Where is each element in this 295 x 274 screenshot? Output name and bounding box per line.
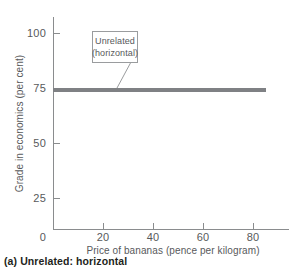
annotation-callout-box: Unrelated (horizontal) (92, 31, 138, 63)
y-tick-label-0: 0 (24, 232, 46, 243)
annotation-leader-line (108, 62, 132, 90)
x-tick-label-40: 40 (138, 232, 168, 243)
data-series-unrelated-horizontal (53, 88, 266, 92)
chart-figure: 100 75 50 25 0 20 40 60 80 Grade in econ… (0, 0, 295, 274)
x-tick-60 (203, 223, 204, 229)
annotation-line-2: (horizontal) (92, 47, 138, 59)
x-tick-label-80: 80 (238, 232, 268, 243)
y-axis-title: Grade in economics (per cent) (14, 34, 25, 214)
figure-caption: (a) Unrelated: horizontal (4, 255, 127, 267)
y-tick-100 (54, 33, 60, 34)
x-tick-20 (103, 223, 104, 229)
y-tick-25 (54, 198, 60, 199)
x-axis-line (53, 229, 289, 230)
annotation-line-1: Unrelated (95, 35, 135, 47)
x-tick-label-60: 60 (188, 232, 218, 243)
x-tick-80 (253, 223, 254, 229)
x-tick-label-20: 20 (88, 232, 118, 243)
y-tick-50 (54, 143, 60, 144)
x-tick-40 (153, 223, 154, 229)
